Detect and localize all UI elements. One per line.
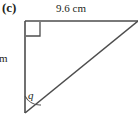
left-side-length-label: m [0, 53, 8, 64]
geometry-figure: (c) 9.6 cm m q [0, 0, 138, 121]
part-label: (c) [2, 1, 16, 14]
top-side-length-label: 9.6 cm [56, 3, 86, 14]
right-angle-marker-icon [26, 22, 40, 36]
angle-label: q [28, 90, 34, 101]
triangle-hypotenuse [25, 21, 138, 113]
triangle-diagram [0, 0, 138, 121]
